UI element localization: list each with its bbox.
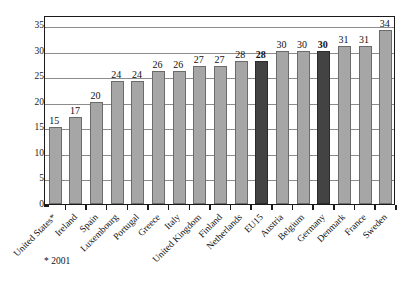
footnote: * 2001 — [44, 256, 70, 266]
bar-portugal[interactable] — [131, 81, 144, 204]
x-axis-tick-mark — [250, 205, 252, 210]
y-axis-tick-label: 35 — [18, 21, 44, 31]
x-axis-tick-mark — [230, 205, 232, 210]
bar-ireland[interactable] — [69, 117, 82, 204]
y-axis-tick-label: 30 — [18, 47, 44, 57]
x-axis-tick-mark — [271, 205, 273, 210]
bar-united-kingdom[interactable] — [193, 66, 206, 204]
bar-spain[interactable] — [90, 102, 103, 204]
value-label: 20 — [84, 91, 108, 101]
y-axis-tick-label: 20 — [18, 98, 44, 108]
bars-group — [45, 17, 394, 204]
bar-united-states[interactable] — [49, 127, 62, 204]
bar-belgium[interactable] — [297, 51, 310, 204]
y-axis-tick-label: 25 — [18, 73, 44, 83]
value-label: 15 — [42, 116, 66, 126]
y-axis-tick-label: 0 — [18, 200, 44, 210]
x-axis-tick-mark — [209, 205, 211, 210]
value-label: 34 — [373, 19, 397, 29]
bar-austria[interactable] — [276, 51, 289, 204]
x-axis-tick-mark — [354, 205, 356, 210]
y-axis-tick-label: 10 — [18, 149, 44, 159]
value-label: 31 — [352, 35, 376, 45]
bar-finland[interactable] — [214, 66, 227, 204]
bar-chart: 05101520253035 1517202424262627272828303… — [0, 0, 416, 284]
bar-luxembourg[interactable] — [111, 81, 124, 204]
bar-greece[interactable] — [152, 71, 165, 204]
bar-eu15[interactable] — [255, 61, 268, 204]
y-axis: 05101520253035 — [8, 16, 44, 205]
bar-sweden[interactable] — [379, 30, 392, 204]
x-axis-tick-mark — [127, 205, 129, 210]
x-axis-tick-mark — [189, 205, 191, 210]
x-axis-tick-mark — [333, 205, 335, 210]
x-axis-label: Greece — [136, 212, 162, 238]
bar-germany[interactable] — [317, 51, 330, 204]
bar-italy[interactable] — [173, 71, 186, 204]
x-axis-label: United States* — [12, 212, 58, 258]
value-label: 17 — [63, 106, 87, 116]
bar-denmark[interactable] — [338, 46, 351, 204]
x-axis-tick-mark — [85, 205, 87, 210]
x-axis-tick-mark — [65, 205, 67, 210]
x-axis-tick-mark — [395, 205, 397, 210]
bar-netherlands[interactable] — [235, 61, 248, 204]
y-axis-tick-label: 5 — [18, 175, 44, 185]
bar-france[interactable] — [359, 46, 372, 204]
x-axis-tick-mark — [106, 205, 108, 210]
x-axis-tick-mark — [168, 205, 170, 210]
x-axis-tick-mark — [147, 205, 149, 210]
y-axis-tick-mark — [44, 205, 49, 207]
y-axis-tick-label: 15 — [18, 124, 44, 134]
x-axis-label: Ireland — [53, 212, 79, 238]
x-axis-tick-mark — [292, 205, 294, 210]
x-axis-tick-mark — [312, 205, 314, 210]
x-axis-tick-mark — [374, 205, 376, 210]
value-label: 28 — [249, 50, 273, 60]
value-label: 24 — [125, 70, 149, 80]
